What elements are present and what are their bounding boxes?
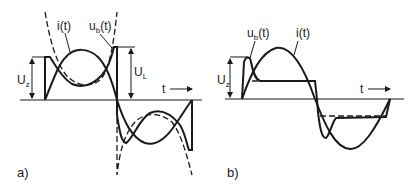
time-label: t — [360, 82, 364, 96]
voltage-label: ub(t) — [89, 19, 111, 35]
voltage-curve — [242, 58, 390, 139]
current-label: i(t) — [57, 19, 71, 33]
time-label: t — [162, 82, 166, 96]
voltage-label: ub(t) — [247, 26, 269, 42]
panel-b-label: b) — [227, 165, 239, 180]
panel-a: Uz UL i(t) ub(t) t a) — [17, 12, 202, 180]
current-curve — [45, 50, 192, 144]
panel-b: Uz ub(t) i(t) t b) — [217, 26, 404, 180]
current-label: i(t) — [296, 26, 310, 40]
waveform-diagram: Uz UL i(t) ub(t) t a) Uz ub(t) i(t) t — [0, 0, 417, 193]
panel-a-label: a) — [17, 165, 29, 180]
voltage-curve — [45, 47, 192, 150]
uz-label: Uz — [217, 73, 230, 89]
ul-label: UL — [134, 65, 148, 81]
voltage-component-dashed — [45, 12, 192, 175]
uz-label: Uz — [17, 73, 30, 89]
